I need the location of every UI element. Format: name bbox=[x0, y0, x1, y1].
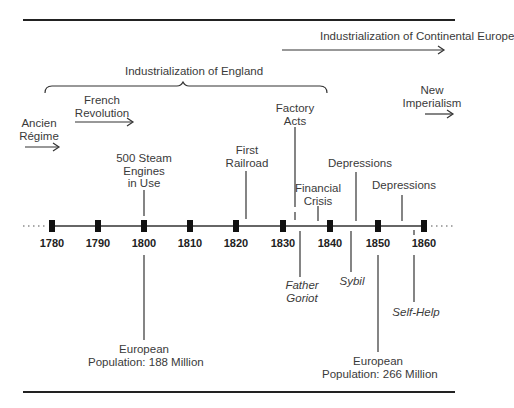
year-1790: 1790 bbox=[78, 237, 118, 249]
self-help-label: Self-Help bbox=[388, 306, 444, 319]
year-1830: 1830 bbox=[263, 237, 303, 249]
financial-crisis-label: Financial Crisis bbox=[292, 182, 344, 207]
year-1820: 1820 bbox=[216, 237, 256, 249]
year-1840: 1840 bbox=[310, 237, 350, 249]
depressions-1840s-label: Depressions bbox=[328, 157, 388, 170]
father-goriot-label: Father Goriot bbox=[282, 279, 322, 304]
first-railroad-label: First Railroad bbox=[222, 144, 272, 169]
factory-acts-label: Factory Acts bbox=[272, 102, 318, 127]
population-1800-label: European Population: 188 Million bbox=[88, 343, 200, 368]
year-1860: 1860 bbox=[404, 237, 444, 249]
steam-engines-label: 500 Steam Engines in Use bbox=[114, 152, 174, 190]
ancien-regime-label: Ancien Régime bbox=[18, 117, 60, 142]
year-1780: 1780 bbox=[32, 237, 72, 249]
population-1850-label: European Population: 266 Million bbox=[322, 355, 434, 380]
new-imperialism-label: New Imperialism bbox=[400, 84, 464, 109]
year-1810: 1810 bbox=[170, 237, 210, 249]
england-brace bbox=[45, 82, 327, 93]
sybil-label: Sybil bbox=[334, 275, 370, 288]
depressions-1850s-label: Depressions bbox=[372, 179, 436, 192]
continental-label: Industrialization of Continental Europe bbox=[320, 30, 514, 43]
year-1800: 1800 bbox=[124, 237, 164, 249]
french-revolution-label: French Revolution bbox=[72, 94, 132, 119]
england-label: Industrialization of England bbox=[125, 65, 263, 78]
year-1850: 1850 bbox=[358, 237, 398, 249]
